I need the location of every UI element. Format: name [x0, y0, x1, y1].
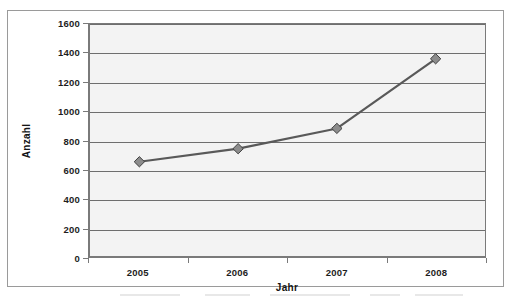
y-axis-tick-label: 400: [10, 194, 80, 205]
x-axis-tick-mark: [287, 258, 288, 263]
x-axis-tick-label: 2007: [326, 267, 348, 278]
y-axis-tick-label: 200: [10, 223, 80, 234]
scan-artifact-strip: [0, 289, 511, 298]
line-series: [90, 24, 485, 256]
y-axis-tick-label: 600: [10, 164, 80, 175]
x-axis-tick-mark: [486, 258, 487, 263]
series-markers: [134, 54, 441, 167]
y-axis-tick-label: 1000: [10, 106, 80, 117]
y-axis-tick-label: 1200: [10, 76, 80, 87]
chart-container: Anzahl Jahr 0200400600800100012001400160…: [7, 10, 504, 287]
x-axis-title: Jahr: [276, 282, 298, 293]
x-axis-tick-label: 2005: [127, 267, 149, 278]
x-axis-tick-label: 2008: [425, 267, 447, 278]
x-axis-tick-label: 2006: [226, 267, 248, 278]
y-axis-tick-label: 1600: [10, 18, 80, 29]
x-axis-tick-mark: [188, 258, 189, 263]
y-axis-tick-label: 1400: [10, 47, 80, 58]
x-axis-tick-mark: [387, 258, 388, 263]
x-axis-tick-mark: [88, 258, 89, 263]
data-point-marker: [233, 144, 243, 154]
data-point-marker: [134, 157, 144, 167]
y-axis-tick-label: 0: [10, 253, 80, 264]
plot-area: [88, 23, 486, 258]
y-axis-tick-label: 800: [10, 135, 80, 146]
series-line-path: [139, 59, 435, 162]
